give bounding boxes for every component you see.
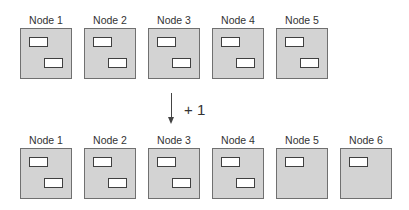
node-box	[340, 148, 392, 199]
node-label: Node 4	[202, 134, 274, 146]
partition	[93, 37, 112, 47]
node-box	[20, 148, 72, 199]
node-label: Node 1	[10, 14, 82, 26]
node-label: Node 1	[10, 134, 82, 146]
node-box	[212, 28, 264, 79]
node-label: Node 3	[138, 14, 210, 26]
partition	[221, 37, 240, 47]
partition	[236, 58, 255, 68]
node-box	[276, 28, 328, 79]
node-label: Node 2	[74, 134, 146, 146]
partition	[157, 157, 176, 167]
node-label: Node 6	[330, 134, 402, 146]
node-box	[148, 28, 200, 79]
node-box	[148, 148, 200, 199]
partition	[108, 58, 127, 68]
partition	[44, 178, 63, 188]
down-arrow-icon	[171, 93, 172, 118]
node-box	[276, 148, 328, 199]
node-label: Node 3	[138, 134, 210, 146]
partition	[221, 157, 240, 167]
node-label: Node 2	[74, 14, 146, 26]
node-box	[20, 28, 72, 79]
partition	[29, 37, 48, 47]
partition	[172, 58, 191, 68]
partition	[157, 37, 176, 47]
node-box	[212, 148, 264, 199]
partition	[172, 178, 191, 188]
partition	[44, 58, 63, 68]
partition	[285, 157, 304, 167]
node-label: Node 5	[266, 134, 338, 146]
partition	[108, 178, 127, 188]
node-label: Node 4	[202, 14, 274, 26]
partition	[349, 157, 368, 167]
arrowhead-icon	[168, 117, 174, 124]
node-box	[84, 28, 136, 79]
partition	[285, 37, 304, 47]
node-label: Node 5	[266, 14, 338, 26]
add-node-label: + 1	[184, 101, 205, 118]
partition	[236, 178, 255, 188]
node-box	[84, 148, 136, 199]
partition	[93, 157, 112, 167]
partition	[300, 58, 319, 68]
partition	[29, 157, 48, 167]
